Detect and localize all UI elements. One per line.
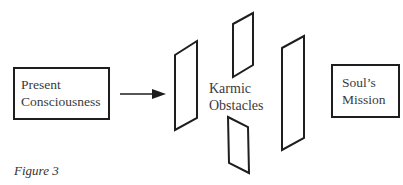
present-label-line2: Consciousness: [21, 93, 101, 110]
figure-caption: Figure 3: [14, 163, 59, 179]
present-consciousness-label: Present Consciousness: [21, 76, 101, 110]
obstacle-shape-4: [282, 36, 304, 150]
obstacle-shape-3: [228, 117, 249, 173]
souls-mission-label: Soul’s Mission: [342, 74, 386, 108]
obstacle-shape-1: [175, 41, 197, 130]
karmic-label-line1: Karmic: [209, 80, 263, 97]
arrow-present-to-obstacles: [120, 89, 166, 99]
karmic-label-line2: Obstacles: [209, 97, 263, 114]
mission-label-line2: Mission: [342, 91, 386, 108]
mission-label-line1: Soul’s: [342, 74, 386, 91]
present-label-line1: Present: [21, 76, 101, 93]
karmic-obstacles-label: Karmic Obstacles: [209, 80, 263, 114]
obstacle-shape-2: [233, 13, 253, 77]
